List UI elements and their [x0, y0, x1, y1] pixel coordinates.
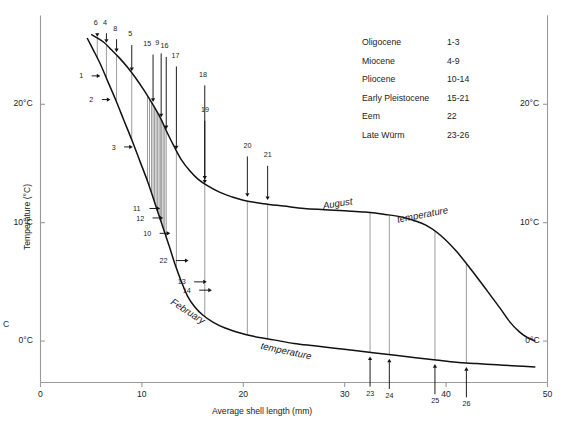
annotation-label-24: 24 — [386, 391, 394, 400]
february-curve — [87, 38, 535, 367]
annotation-label-10: 10 — [143, 229, 151, 238]
annotation-label-6: 6 — [94, 18, 98, 27]
annotation-label-20: 20 — [244, 141, 252, 150]
chart-root: Temperature (°C) Average shell length (m… — [0, 0, 584, 436]
y-tick-label-left: 10°C — [14, 217, 33, 227]
y-tick-label-right: 10°C — [520, 217, 539, 227]
legend-epoch-range: 10-14 — [447, 74, 469, 84]
annotation-label-26: 26 — [463, 399, 471, 408]
annotation-label-11: 11 — [133, 204, 140, 213]
legend-epoch-range: 1-3 — [447, 37, 460, 47]
legend-epoch-range: 15-21 — [447, 93, 469, 103]
stray-glyph: C — [3, 319, 9, 329]
annotation-label-12: 12 — [136, 214, 144, 223]
legend-epoch-range: 4-9 — [447, 56, 460, 66]
arrow-up-26-head — [464, 367, 468, 371]
chart-canvas — [0, 0, 584, 436]
legend-epoch-name: Late Würm — [362, 130, 404, 140]
annotation-label-14: 14 — [183, 286, 191, 295]
annotation-label-1: 1 — [79, 71, 83, 80]
annotation-label-9: 9 — [155, 38, 159, 47]
annotation-label-16: 16 — [160, 41, 168, 50]
legend-epoch-range: 22 — [447, 111, 457, 121]
arrow-right-2-head — [107, 97, 111, 101]
legend-epoch-name: Pliocene — [362, 74, 395, 84]
legend-epoch-name: Eem — [362, 111, 380, 121]
arrow-right-11-head — [157, 206, 161, 210]
arrow-down-20-head — [245, 193, 249, 197]
x-axis-title: Average shell length (mm) — [212, 406, 312, 416]
annotation-label-25: 25 — [431, 396, 439, 405]
annotation-label-8: 8 — [113, 24, 117, 33]
arrow-down-4-head — [104, 39, 108, 43]
x-tick-label: 50 — [543, 389, 553, 399]
x-tick-label: 10 — [137, 389, 147, 399]
arrow-up-25-head — [433, 364, 437, 368]
annotation-label-19: 19 — [201, 105, 209, 114]
y-tick-label-right: 0°C — [525, 335, 539, 345]
legend-epoch-name: Oligocene — [362, 37, 401, 47]
y-tick-label-left: 0°C — [19, 335, 33, 345]
y-tick-label-right: 20°C — [520, 98, 539, 108]
y-tick-label-left: 20°C — [14, 98, 33, 108]
annotation-label-3: 3 — [112, 143, 116, 152]
arrow-right-10-head — [167, 231, 171, 235]
annotation-label-23: 23 — [366, 389, 374, 398]
arrow-right-22-head — [185, 258, 189, 262]
arrow-down-19-head — [203, 176, 207, 180]
arrow-up-23-head — [368, 356, 372, 360]
annotation-label-2: 2 — [89, 95, 93, 104]
legend-epoch-name: Miocene — [362, 56, 395, 66]
annotation-label-21: 21 — [264, 150, 272, 159]
annotation-label-18: 18 — [199, 70, 207, 79]
legend-epoch-range: 23-26 — [447, 130, 469, 140]
arrow-up-24-head — [387, 359, 391, 363]
x-tick-label: 20 — [239, 389, 249, 399]
x-tick-label: 30 — [340, 389, 350, 399]
x-tick-label: 0 — [38, 389, 43, 399]
annotation-label-22: 22 — [159, 256, 167, 265]
arrow-down-21-head — [266, 196, 270, 200]
arrow-down-8-head — [114, 49, 118, 53]
arrow-right-14-head — [208, 288, 212, 292]
annotation-label-5: 5 — [128, 29, 132, 38]
annotation-label-17: 17 — [172, 51, 180, 60]
annotation-label-4: 4 — [103, 18, 107, 27]
annotation-label-15: 15 — [143, 39, 151, 48]
x-tick-label: 40 — [441, 389, 451, 399]
arrow-right-1-head — [97, 74, 101, 78]
legend-epoch-name: Early Pleistocene — [362, 93, 429, 103]
arrow-right-3-head — [129, 145, 133, 149]
